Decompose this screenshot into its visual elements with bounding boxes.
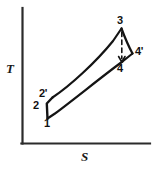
state-point-label-4: 4 (117, 63, 123, 74)
ts-diagram-canvas (0, 0, 159, 177)
x-axis-label-entropy: S (81, 150, 88, 163)
process-2prime-3-heat-addition (53, 29, 122, 98)
y-axis-label-temperature: T (6, 62, 14, 75)
state-point-label-3: 3 (117, 15, 123, 26)
process-3-4prime-expansion (122, 29, 133, 54)
state-point-label-2: 2 (33, 100, 39, 111)
state-point-label-2-prime: 2' (39, 88, 47, 99)
state-point-label-4-prime: 4' (135, 46, 143, 57)
ts-diagram-figure: T S 1 2 2' 3 4 4' (0, 0, 159, 177)
cut-off-caption-text (4, 171, 80, 177)
state-point-label-1: 1 (44, 118, 50, 129)
axes-group (21, 8, 150, 144)
